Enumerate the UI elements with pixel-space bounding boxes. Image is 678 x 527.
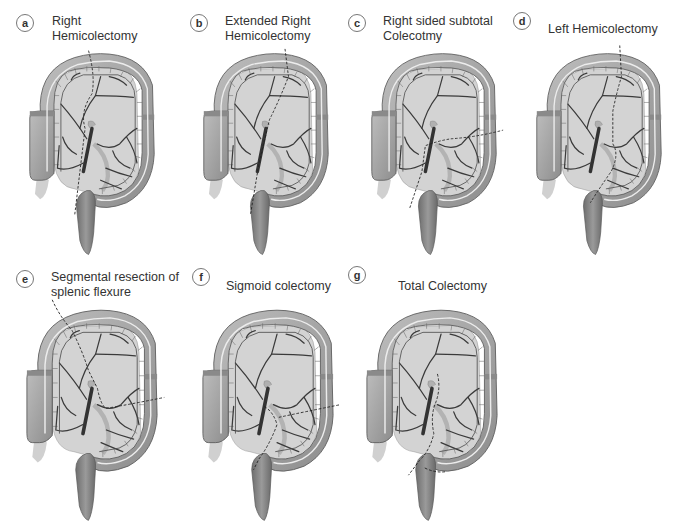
panel-g-total-colectomy: g Total Colectomy: [340, 258, 520, 527]
panel-letter-badge: f: [192, 268, 210, 286]
colon-illustration: [188, 298, 348, 524]
panel-title: Total Colectomy: [398, 279, 487, 294]
panel-title: Right Hemicolectomy: [52, 14, 137, 44]
panel-a-right-hemicolectomy: a Right Hemicolectomy: [0, 0, 180, 255]
panel-c-right-sided-subtotal-colectomy: c Right sided subtotal Colecotmy: [340, 0, 520, 255]
panel-letter-badge: b: [190, 14, 208, 32]
panel-letter-badge: g: [348, 266, 366, 284]
panel-e-segmental-resection-splenic-flexure: e Segmental resection of splenic flexure: [0, 258, 180, 527]
panel-letter-badge: a: [16, 14, 34, 32]
colon-illustration: [12, 42, 172, 258]
panel-letter-badge: d: [513, 12, 531, 30]
colon-illustration: [352, 298, 512, 524]
title-line: Total Colectomy: [398, 279, 487, 294]
title-line: Right: [52, 14, 137, 29]
colon-illustration: [354, 42, 514, 258]
colon-illustration: [12, 298, 172, 524]
title-line: Right sided subtotal: [383, 14, 493, 29]
panel-title: Right sided subtotal Colecotmy: [383, 14, 493, 44]
title-line: Extended Right: [225, 14, 310, 29]
panel-letter-badge: c: [348, 14, 366, 32]
panel-title: Sigmoid colectomy: [226, 279, 331, 294]
panel-f-sigmoid-colectomy: f Sigmoid colectomy: [180, 258, 350, 527]
title-line: Segmental resection of: [51, 270, 179, 285]
panel-d-left-hemicolectomy: d Left Hemicolectomy: [505, 0, 678, 255]
panel-letter-badge: e: [16, 270, 34, 288]
colon-illustration: [186, 42, 346, 258]
title-line: Sigmoid colectomy: [226, 279, 331, 294]
panel-b-extended-right-hemicolectomy: b Extended Right Hemicolectomy: [170, 0, 350, 255]
title-line: Left Hemicolectomy: [548, 22, 658, 37]
panel-title: Segmental resection of splenic flexure: [51, 270, 179, 300]
colon-illustration: [519, 42, 678, 258]
panel-title: Extended Right Hemicolectomy: [225, 14, 310, 44]
panel-title: Left Hemicolectomy: [548, 22, 658, 37]
